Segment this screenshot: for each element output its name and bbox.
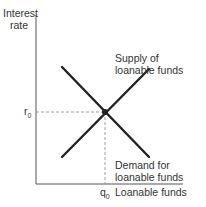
supply-label-line2: loanable funds xyxy=(115,64,183,76)
y-axis-label-line1: Interest xyxy=(3,7,35,19)
supply-label: Supply of loanable funds xyxy=(115,52,183,76)
supply-label-line1: Supply of xyxy=(115,52,183,64)
demand-label-line2: loanable funds xyxy=(115,171,183,183)
demand-label-line1: Demand for xyxy=(115,159,183,171)
r0-tick-label: r0 xyxy=(24,105,31,122)
q0-tick-label: q0 xyxy=(100,186,110,203)
r0-subscript: 0 xyxy=(28,112,32,119)
y-axis-label: Interest rate xyxy=(3,7,35,31)
y-axis-label-line2: rate xyxy=(3,19,35,31)
demand-label: Demand for loanable funds xyxy=(115,159,183,183)
q0-subscript: 0 xyxy=(106,193,110,200)
x-axis-label: Loanable funds xyxy=(115,186,187,198)
equilibrium-point xyxy=(102,109,108,115)
